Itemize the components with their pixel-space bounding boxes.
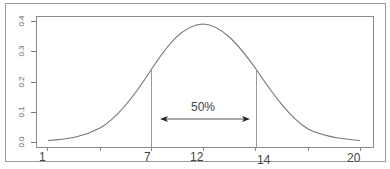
x-tick-label: 1 — [39, 150, 46, 164]
x-tick-label: 12 — [190, 150, 204, 164]
y-tick-label: 0.4 — [17, 15, 26, 27]
y-axis — [31, 22, 36, 143]
x-tick-label: 20 — [347, 151, 361, 165]
normal-distribution-chart: 0.0 0.1 0.2 0.3 0.4 1 7 12 14 20 — [0, 0, 390, 169]
y-tick-label: 0.1 — [17, 106, 26, 118]
plot-area — [37, 17, 374, 148]
y-tick-label: 0.0 — [17, 136, 26, 148]
x-tick-label: 7 — [144, 150, 151, 164]
y-tick-label: 0.2 — [17, 76, 26, 88]
region-label: 50% — [191, 100, 215, 114]
x-tick-label: 14 — [257, 153, 271, 167]
y-tick-label: 0.3 — [17, 45, 26, 57]
